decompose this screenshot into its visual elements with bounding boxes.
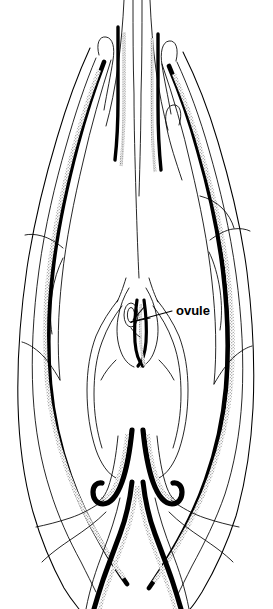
- figure-canvas: ovule: [0, 0, 273, 609]
- ovule-label: ovule: [176, 303, 210, 318]
- botanical-figure: ovule: [0, 0, 273, 609]
